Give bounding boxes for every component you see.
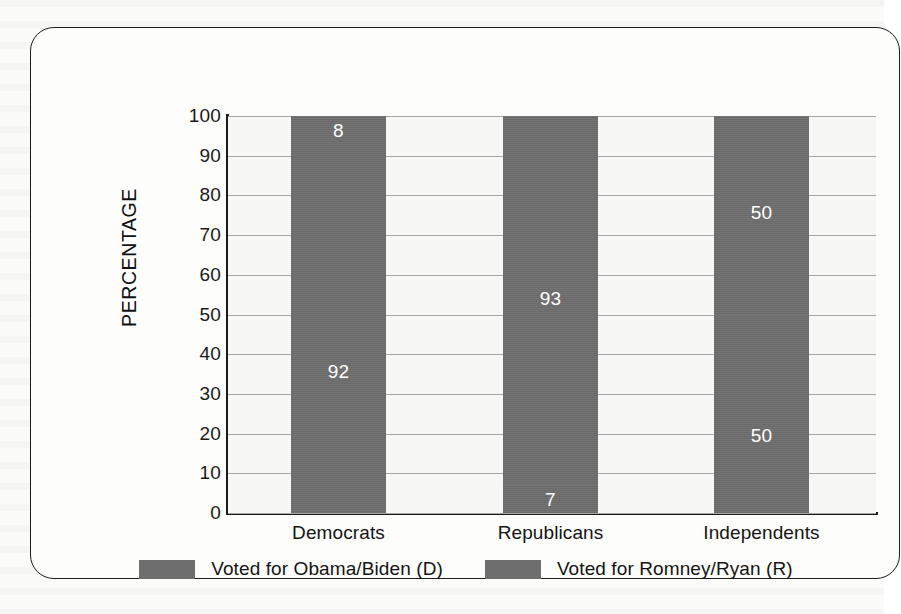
y-axis-tick-label: 80: [175, 184, 221, 206]
y-axis-title: PERCENTAGE: [118, 138, 141, 378]
legend-swatch: [139, 560, 195, 579]
bar-value-label: 93: [503, 288, 598, 310]
y-axis-tick-label: 0: [175, 502, 221, 524]
chart-plot-area: 8929375050: [228, 116, 876, 513]
bar-stack-independents[interactable]: 5050: [714, 116, 809, 513]
y-axis-tick-label: 60: [175, 264, 221, 286]
bar-value-label: 50: [714, 425, 809, 447]
legend-label: Voted for Romney/Ryan (R): [557, 558, 793, 580]
bar-segment-republican[interactable]: 50: [714, 116, 809, 315]
y-axis-tick-label: 100: [175, 105, 221, 127]
y-axis-tick-label: 40: [175, 343, 221, 365]
x-axis-category-label: Independents: [667, 522, 857, 544]
gridline: [228, 513, 876, 514]
bar-stack-republicans[interactable]: 937: [503, 116, 598, 513]
legend-label: Voted for Obama/Biden (D): [211, 558, 443, 580]
bar-stack-democrats[interactable]: 892: [291, 116, 386, 513]
x-axis-category-label: Republicans: [456, 522, 646, 544]
bar-segment-democrat[interactable]: 7: [503, 485, 598, 513]
bar-value-label: 8: [291, 120, 386, 142]
bar-value-label: 7: [503, 489, 598, 511]
y-axis-tick-label: 50: [175, 304, 221, 326]
bar-segment-republican[interactable]: 8: [291, 116, 386, 148]
bar-segment-democrat[interactable]: 50: [714, 315, 809, 514]
bar-segment-democrat[interactable]: 92: [291, 148, 386, 513]
bar-value-label: 50: [714, 202, 809, 224]
y-axis-tick-labels: 1009080706050403020100: [171, 116, 221, 513]
legend-item-1[interactable]: Voted for Romney/Ryan (R): [485, 558, 793, 580]
x-axis-category-label: Democrats: [244, 522, 434, 544]
y-axis-tick-label: 10: [175, 462, 221, 484]
legend-swatch: [485, 560, 541, 579]
chart-legend: Voted for Obama/Biden (D)Voted for Romne…: [31, 558, 901, 580]
y-axis-tick-label: 90: [175, 145, 221, 167]
y-axis-tick-label: 30: [175, 383, 221, 405]
y-axis-tick-label: 20: [175, 423, 221, 445]
legend-item-0[interactable]: Voted for Obama/Biden (D): [139, 558, 443, 580]
bar-value-label: 92: [291, 361, 386, 383]
bar-segment-republican[interactable]: 93: [503, 116, 598, 485]
y-axis-tick-label: 70: [175, 224, 221, 246]
figure-frame: PERCENTAGE 1009080706050403020100 892937…: [30, 27, 900, 579]
